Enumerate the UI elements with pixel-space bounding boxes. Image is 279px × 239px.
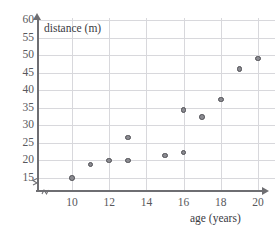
data-point [69,175,75,181]
x-tick-label: 12 [96,196,122,208]
y-tick-label: 35 [12,102,34,113]
y-tick-label: 15 [12,172,34,183]
data-point [106,158,112,164]
x-axis-title: age (years) [190,212,241,224]
y-axis-tick-labels: 15202530354045505560 [9,0,34,239]
x-axis-arrow-icon [262,187,269,195]
gridline-vertical [109,18,110,190]
y-tick-label: 50 [12,49,34,60]
data-point [255,56,261,62]
plot-area [37,18,278,190]
data-point [88,162,94,168]
y-tick-label: 60 [12,14,34,25]
x-tick-label: 10 [59,196,85,208]
y-tick-label: 25 [12,137,34,148]
data-point [181,107,187,113]
x-tick-label: 20 [245,196,271,208]
gridline-vertical [258,18,259,190]
scatter-chart: 15202530354045505560 101214161820 distan… [0,0,279,239]
data-point [125,158,131,164]
x-axis-break-icon [40,184,52,196]
data-point [199,114,205,120]
y-axis-arrow-icon [33,13,41,20]
data-point [181,150,187,156]
y-axis-line [37,18,39,190]
data-point [237,66,243,72]
gridline-vertical [146,18,147,190]
y-tick-label: 40 [12,84,34,95]
data-point [218,97,224,103]
gridline-vertical [72,18,73,190]
x-tick-label: 16 [171,196,197,208]
x-axis-line [36,190,265,192]
y-tick-label: 30 [12,119,34,130]
y-tick-label: 20 [12,154,34,165]
gridline-vertical [184,18,185,190]
data-point [162,153,168,159]
y-tick-label: 55 [12,32,34,43]
x-tick-label: 14 [133,196,159,208]
data-point [125,135,131,141]
x-tick-label: 18 [208,196,234,208]
y-tick-label: 45 [12,67,34,78]
gridline-vertical [221,18,222,190]
y-axis-title: distance (m) [44,22,101,34]
